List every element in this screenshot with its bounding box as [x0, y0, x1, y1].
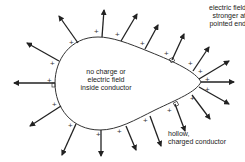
- plus-charge: +: [167, 107, 172, 115]
- center-label: no charge or electric field inside condu…: [70, 68, 142, 92]
- plus-charge: +: [140, 40, 145, 48]
- plus-charge: +: [190, 95, 195, 103]
- plus-charge: +: [96, 131, 101, 139]
- tip-label: electric field stronger at pointed end: [194, 4, 245, 28]
- plus-charge: +: [117, 128, 122, 136]
- plus-charge: +: [52, 101, 57, 109]
- plus-charge: +: [68, 122, 73, 130]
- plus-charge: +: [164, 50, 169, 58]
- diagram-canvas: + + + + + + + + + + + + + + + + + + no c…: [0, 0, 245, 162]
- plus-charge: +: [50, 60, 55, 68]
- plus-charge: +: [69, 39, 74, 47]
- plus-charge: +: [198, 68, 203, 76]
- plus-charge: +: [205, 86, 210, 94]
- plus-charge: +: [47, 77, 52, 85]
- hollow-label-line: charged conductor: [168, 138, 244, 146]
- plus-charge: +: [94, 28, 99, 36]
- tip-label-line: pointed end: [194, 20, 245, 28]
- hollow-label: hollow, charged conductor: [168, 130, 244, 146]
- center-label-line: inside conductor: [70, 84, 142, 92]
- plus-charge: +: [143, 117, 148, 125]
- tip-label-line: stronger at: [194, 12, 245, 20]
- hollow-label-line: hollow,: [168, 130, 244, 138]
- center-label-line: no charge or: [70, 68, 142, 76]
- center-label-line: electric field: [70, 76, 142, 84]
- plus-charge: +: [115, 31, 120, 39]
- plus-charge: +: [205, 76, 210, 84]
- tip-label-line: electric field: [194, 4, 245, 12]
- plus-charge: +: [188, 60, 193, 68]
